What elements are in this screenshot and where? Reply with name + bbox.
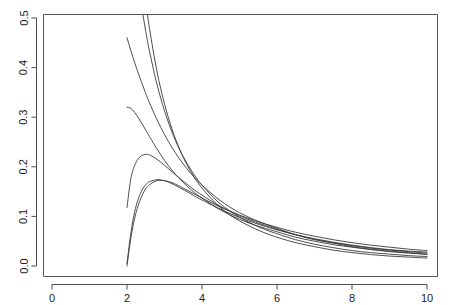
y-tick-label: 0.0 (18, 258, 30, 273)
figure-background (0, 0, 455, 305)
y-tick-label: 0.2 (18, 159, 30, 174)
x-tick-label: 8 (349, 292, 355, 304)
x-tick-label: 2 (124, 292, 130, 304)
plot-figure: 0.00.10.20.30.40.5 0246810 (0, 0, 455, 305)
x-tick-label: 6 (274, 292, 280, 304)
x-tick-label: 0 (49, 292, 55, 304)
y-tick-label: 0.5 (18, 10, 30, 25)
x-tick-label: 4 (199, 292, 205, 304)
y-tick-label: 0.4 (18, 60, 30, 75)
y-tick-label: 0.3 (18, 110, 30, 125)
chart-canvas: 0.00.10.20.30.40.5 0246810 (0, 0, 455, 305)
y-tick-label: 0.1 (18, 209, 30, 224)
x-tick-label: 10 (421, 292, 433, 304)
